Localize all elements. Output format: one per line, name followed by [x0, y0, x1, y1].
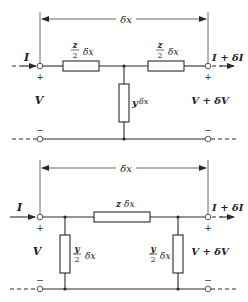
series-impedance: [94, 212, 150, 222]
plus-sign: +: [204, 223, 212, 233]
minus-sign: −: [204, 275, 212, 285]
shunt-right-den: 2: [150, 255, 155, 264]
minus-sign: −: [36, 275, 44, 285]
output-terminal-bottom: [205, 286, 211, 292]
input-voltage-label: V: [33, 245, 43, 258]
input-terminal-bottom: [37, 286, 43, 292]
junction-dot: [63, 215, 66, 218]
output-current-label: I + δI: [211, 52, 244, 63]
series-left-den: 2: [72, 51, 77, 60]
shunt-admittance: [119, 84, 129, 122]
shunt-suffix: δx: [139, 97, 149, 106]
junction-dot: [122, 64, 125, 67]
series-suffix: δx: [124, 199, 135, 209]
output-voltage-label: V + δV: [191, 95, 230, 106]
input-terminal-top: [37, 214, 43, 220]
series-right-num: z: [156, 40, 163, 50]
plus-sign: +: [36, 223, 44, 233]
dimension-label: δx: [120, 14, 132, 25]
shunt-symbol: y: [131, 97, 139, 108]
series-left-suffix: δx: [83, 47, 94, 57]
shunt-right-suffix: δx: [160, 251, 171, 261]
series-right-den: 2: [157, 51, 162, 60]
junction-dot: [176, 215, 179, 218]
output-terminal-bottom: [205, 136, 211, 142]
series-impedance-right: [148, 61, 184, 71]
pi-section-circuit: δx I z δx y 2 δx y 2 δx I + δI: [10, 160, 244, 292]
shunt-right-num: y: [149, 244, 156, 254]
output-voltage-label: V + δV: [191, 246, 230, 257]
output-terminal-top: [205, 214, 211, 220]
output-current-label: I + δI: [211, 202, 244, 213]
input-terminal-bottom: [37, 136, 43, 142]
series-right-suffix: δx: [168, 47, 179, 57]
series-symbol: z: [115, 199, 122, 209]
minus-sign: −: [36, 125, 44, 135]
plus-sign: +: [204, 72, 212, 82]
input-terminal-top: [37, 63, 43, 69]
input-current-label: I: [16, 201, 23, 214]
shunt-left-den: 2: [74, 255, 79, 264]
series-impedance-left: [63, 61, 99, 71]
minus-sign: −: [204, 125, 212, 135]
plus-sign: +: [36, 72, 44, 82]
t-section-circuit: δx I z 2 δx z 2 δx y δx I + δI: [12, 12, 244, 142]
input-voltage-label: V: [35, 94, 45, 107]
shunt-left-num: y: [73, 244, 80, 254]
shunt-admittance-left: [60, 235, 70, 273]
series-left-num: z: [71, 40, 78, 50]
output-terminal-top: [205, 63, 211, 69]
dimension-label: δx: [120, 163, 132, 174]
transmission-line-diagram: δx I z 2 δx z 2 δx y δx I + δI: [0, 0, 248, 302]
shunt-admittance-right: [173, 235, 183, 273]
input-current-label: I: [23, 51, 30, 64]
shunt-left-suffix: δx: [85, 251, 96, 261]
